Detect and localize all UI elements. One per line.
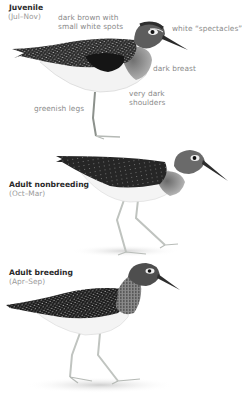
- juvenile-sandpiper-illustration: [0, 0, 252, 140]
- adult-nonbreeding-sandpiper-illustration: [0, 130, 252, 260]
- adult-breeding-sandpiper-illustration: [0, 255, 252, 399]
